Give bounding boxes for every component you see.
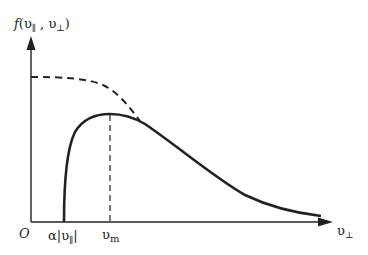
- loss-cone-solid-curve: [64, 114, 321, 222]
- x-axis-label: υ⊥: [337, 223, 353, 240]
- y-axis-label: f(υ∥ , υ⊥): [13, 16, 70, 33]
- alpha-v-par-label: α|υ∥|: [48, 228, 78, 245]
- x-axis-arrow-icon: [318, 218, 333, 227]
- vm-label: υm: [102, 227, 120, 244]
- distribution-diagram: f(υ∥ , υ⊥) O α|υ∥| υm υ⊥: [0, 0, 368, 255]
- origin-label: O: [19, 226, 30, 241]
- y-axis-arrow-icon: [27, 36, 36, 50]
